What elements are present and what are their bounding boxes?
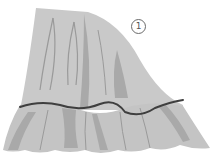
step-number-label: 1 [131,19,146,34]
fabric-drape-illustration [0,0,219,156]
